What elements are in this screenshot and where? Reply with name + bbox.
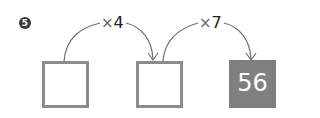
times-symbol: × xyxy=(199,14,212,32)
operand: 7 xyxy=(212,13,222,32)
operand: 4 xyxy=(114,13,124,32)
answer-box-2[interactable] xyxy=(136,61,183,108)
times-symbol: × xyxy=(101,14,114,32)
operation-label-2: ×7 xyxy=(199,15,222,31)
arc-arrow-1 xyxy=(64,23,100,61)
result-box: 56 xyxy=(229,60,276,108)
answer-box-1[interactable] xyxy=(42,61,89,108)
arc-arrow-2 xyxy=(163,23,198,61)
operation-label-1: ×4 xyxy=(101,15,124,31)
